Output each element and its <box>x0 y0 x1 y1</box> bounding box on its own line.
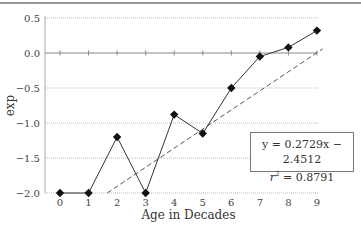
x-tick-label: 9 <box>314 197 320 208</box>
data-point-diamond-icon <box>313 26 321 34</box>
y-tick-label: −0.5 <box>16 83 40 94</box>
data-point-diamond-icon <box>84 189 92 197</box>
x-tick-label: 4 <box>171 197 177 208</box>
y-tick-label: −2.0 <box>16 188 40 199</box>
data-point-diamond-icon <box>170 110 178 118</box>
x-tick-label: 8 <box>285 197 291 208</box>
data-point-diamond-icon <box>141 189 149 197</box>
x-tick-label: 6 <box>228 197 234 208</box>
data-point-diamond-icon <box>284 43 292 51</box>
data-point-diamond-icon <box>56 189 64 197</box>
y-tick-label: −1.5 <box>16 153 40 164</box>
data-point-diamond-icon <box>199 129 207 137</box>
y-axis-label: exp <box>3 94 17 116</box>
x-tick-label: 3 <box>142 197 148 208</box>
y-tick-label: 0.0 <box>24 48 40 59</box>
data-point-diamond-icon <box>113 133 121 141</box>
x-axis-label: Age in Decades <box>140 208 235 222</box>
x-tick-label: 0 <box>57 197 63 208</box>
chart: 0.50.0−0.5−1.0−1.5−2.00123456789Age in D… <box>0 0 361 230</box>
x-tick-label: 1 <box>85 197 91 208</box>
equation-text: y = 0.2729x − 2.4512 <box>251 137 353 167</box>
trendline-equation-box: y = 0.2729x − 2.4512 r2 = 0.8791 <box>250 132 354 172</box>
x-tick-label: 2 <box>114 197 120 208</box>
x-tick-label: 5 <box>200 197 206 208</box>
r-squared-text: r2 = 0.8791 <box>251 167 353 185</box>
y-tick-label: 0.5 <box>24 13 40 24</box>
x-tick-label: 7 <box>257 197 263 208</box>
y-tick-label: −1.0 <box>16 118 40 129</box>
